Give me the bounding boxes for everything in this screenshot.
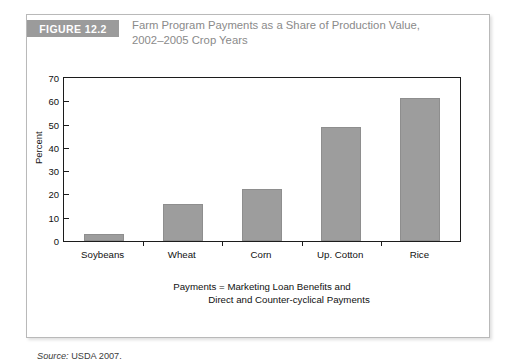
y-tick-label: 70 xyxy=(48,73,59,84)
y-tick-label: 20 xyxy=(48,189,59,200)
x-axis-caption-line-1: Payments = Marketing Loan Benefits and xyxy=(63,281,461,294)
source-note: Source: USDA 2007. xyxy=(37,351,122,361)
bar-corn xyxy=(242,189,282,241)
y-tick-mark xyxy=(64,101,69,102)
y-tick-label: 60 xyxy=(48,96,59,107)
figure-title-line-2: 2002–2005 Crop Years xyxy=(132,33,420,48)
x-axis-caption: Payments = Marketing Loan Benefits and D… xyxy=(63,281,461,306)
y-tick-mark xyxy=(64,241,69,242)
plot-area: 010203040506070 xyxy=(63,77,461,242)
y-tick-label: 10 xyxy=(48,212,59,223)
y-tick-mark xyxy=(64,171,69,172)
x-tick-mark xyxy=(222,241,223,246)
y-tick-mark xyxy=(64,148,69,149)
x-tick-mark xyxy=(302,241,303,246)
figure-frame: FIGURE 12.2 Farm Program Payments as a S… xyxy=(26,14,490,338)
y-tick-label: 30 xyxy=(48,166,59,177)
source-value: USDA 2007. xyxy=(69,351,122,361)
x-tick-mark xyxy=(143,241,144,246)
figure-title: Farm Program Payments as a Share of Prod… xyxy=(132,18,420,47)
figure-title-line-1: Farm Program Payments as a Share of Prod… xyxy=(132,18,420,33)
figure-number-badge: FIGURE 12.2 xyxy=(27,20,119,37)
y-tick-mark xyxy=(64,194,69,195)
y-axis-title: Percent xyxy=(33,131,44,164)
y-tick-label: 50 xyxy=(48,119,59,130)
bar-wheat xyxy=(163,204,203,241)
bar-rice xyxy=(400,98,440,241)
x-category-label: Up. Cotton xyxy=(317,249,363,260)
bar-soybeans xyxy=(84,234,124,241)
y-tick-mark xyxy=(64,125,69,126)
x-category-label: Wheat xyxy=(168,249,196,260)
y-tick-mark xyxy=(64,218,69,219)
x-tick-mark xyxy=(381,241,382,246)
x-category-label: Rice xyxy=(410,249,429,260)
x-axis-caption-line-2: Direct and Counter-cyclical Payments xyxy=(63,294,461,307)
x-category-label: Corn xyxy=(251,249,272,260)
y-tick-label: 0 xyxy=(54,236,59,247)
bar-up-cotton xyxy=(321,127,361,241)
source-keyword: Source: xyxy=(37,351,69,361)
y-tick-label: 40 xyxy=(48,142,59,153)
x-category-label: Soybeans xyxy=(81,249,124,260)
chart-area: Percent 010203040506070 Payments = Marke… xyxy=(27,59,491,339)
figure-header: FIGURE 12.2 Farm Program Payments as a S… xyxy=(27,15,489,59)
